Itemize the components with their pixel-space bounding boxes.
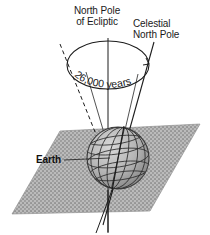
label-north-pole-of-ecliptic-line1: North Pole (62, 5, 132, 16)
label-earth: Earth (36, 154, 61, 165)
label-north-pole-of-ecliptic: North Pole of Ecliptic (62, 5, 132, 27)
label-north-pole-of-ecliptic-line2: of Ecliptic (62, 16, 132, 27)
precession-period-label: 26,000 years (73, 68, 133, 90)
label-celestial-north-pole-line2: North Pole (133, 29, 209, 40)
precession-diagram: 26,000 years (0, 0, 210, 235)
label-celestial-north-pole: Celestial North Pole (133, 18, 209, 40)
label-celestial-north-pole-line1: Celestial (133, 18, 209, 29)
